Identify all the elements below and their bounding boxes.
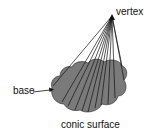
base-arrow <box>33 88 54 93</box>
conic-surface-diagram <box>0 0 147 135</box>
vertex-label: vertex <box>116 7 143 17</box>
base-curve <box>51 59 126 112</box>
vertex-point <box>109 14 115 20</box>
base-label: base <box>13 86 35 96</box>
conic-surface-label: conic surface <box>61 120 120 130</box>
